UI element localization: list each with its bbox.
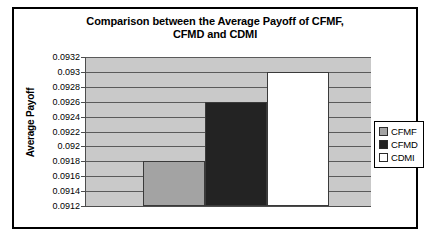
y-axis-tick-mark	[81, 117, 85, 118]
y-axis-tick-label: 0.093	[34, 68, 80, 77]
legend-item-cdmi: CDMI	[379, 151, 418, 164]
y-axis-tick-label: 0.0922	[34, 128, 80, 137]
y-axis-tick-labels: 0.09320.0930.09280.09260.09240.09220.092…	[30, 57, 80, 206]
y-axis-tick-mark	[81, 161, 85, 162]
chart-title-line-2: CFMD and CDMI	[28, 28, 402, 41]
legend-label-cdmi: CDMI	[391, 152, 414, 163]
y-axis-tick-mark	[81, 176, 85, 177]
y-axis-tick-mark	[81, 72, 85, 73]
bar-cdmi	[267, 72, 329, 206]
y-axis-tick-mark	[81, 132, 85, 133]
legend-label-cfmd: CFMD	[391, 139, 418, 150]
bar-cfmd	[205, 102, 267, 206]
y-axis-tick-label: 0.0918	[34, 157, 80, 166]
legend-item-cfmd: CFMD	[379, 138, 418, 151]
chart-container: Comparison between the Average Payoff of…	[12, 7, 418, 229]
plot-area	[85, 57, 371, 207]
gridline	[86, 57, 371, 58]
legend-swatch-cdmi	[379, 153, 388, 162]
y-axis-tick-label: 0.0912	[34, 202, 80, 211]
legend-label-cfmf: CFMF	[391, 126, 417, 137]
chart-title: Comparison between the Average Payoff of…	[28, 15, 402, 41]
y-axis-tick-label: 0.0916	[34, 172, 80, 181]
y-axis-tick-mark	[81, 102, 85, 103]
y-axis-tick-label: 0.0926	[34, 98, 80, 107]
legend-swatch-cfmf	[379, 127, 388, 136]
chart-legend: CFMFCFMDCDMI	[374, 121, 424, 168]
y-axis-tick-mark	[81, 146, 85, 147]
y-axis-tick-label: 0.0928	[34, 83, 80, 92]
y-axis-tick-mark	[81, 57, 85, 58]
bar-cfmf	[143, 161, 205, 206]
y-axis-tick-mark	[81, 87, 85, 88]
y-axis-tick-label: 0.0932	[34, 53, 80, 62]
y-axis-tick-label: 0.0924	[34, 113, 80, 122]
y-axis-tick-label: 0.0914	[34, 187, 80, 196]
y-axis-tick-label: 0.092	[34, 142, 80, 151]
legend-item-cfmf: CFMF	[379, 125, 418, 138]
legend-swatch-cfmd	[379, 140, 388, 149]
y-axis-tick-mark	[81, 191, 85, 192]
y-axis-tick-mark	[81, 206, 85, 207]
chart-title-line-1: Comparison between the Average Payoff of…	[28, 15, 402, 28]
